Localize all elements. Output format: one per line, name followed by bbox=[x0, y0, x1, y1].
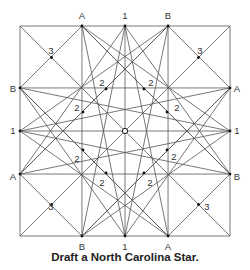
point-label: B bbox=[165, 10, 171, 21]
point-label: A bbox=[165, 241, 172, 250]
point-label: 2 bbox=[99, 77, 104, 88]
point-dot bbox=[81, 25, 84, 28]
point-label: 1 bbox=[234, 125, 239, 136]
point-dot bbox=[82, 111, 85, 114]
point-dot bbox=[19, 173, 22, 176]
figure-caption: Draft a North Carolina Star. bbox=[0, 251, 250, 263]
point-dot bbox=[197, 203, 200, 206]
point-dot bbox=[229, 173, 232, 176]
point-dot bbox=[229, 130, 232, 133]
point-dot bbox=[105, 88, 108, 91]
construction-line bbox=[20, 88, 125, 236]
point-label: A bbox=[10, 171, 17, 182]
point-dot bbox=[81, 235, 84, 238]
point-label: 2 bbox=[171, 151, 176, 162]
point-dot bbox=[124, 235, 127, 238]
point-dot bbox=[82, 149, 85, 152]
construction-line bbox=[20, 26, 125, 174]
point-dot bbox=[167, 25, 170, 28]
point-label: A bbox=[234, 83, 241, 94]
point-dot bbox=[197, 56, 200, 59]
point-label: 1 bbox=[10, 125, 15, 136]
point-label: 2 bbox=[74, 102, 79, 113]
point-dot bbox=[105, 172, 108, 175]
construction-line bbox=[125, 26, 230, 174]
construction-line bbox=[20, 26, 168, 131]
point-label: B bbox=[79, 241, 85, 250]
point-dot bbox=[166, 149, 169, 152]
point-label: 2 bbox=[148, 77, 153, 88]
point-label: 3 bbox=[48, 201, 53, 212]
point-label: 2 bbox=[147, 177, 152, 188]
point-label: 2 bbox=[74, 153, 79, 164]
north-carolina-star-diagram: A1BB1AA1BB1A333322222222 bbox=[0, 0, 250, 250]
point-dot bbox=[166, 111, 169, 114]
point-label: B bbox=[10, 83, 16, 94]
point-label: A bbox=[79, 10, 86, 21]
point-dot bbox=[50, 56, 53, 59]
point-dot bbox=[19, 130, 22, 133]
point-label: 2 bbox=[99, 177, 104, 188]
point-label: 1 bbox=[122, 241, 127, 250]
point-label: 2 bbox=[174, 102, 179, 113]
point-dot bbox=[124, 25, 127, 28]
point-dot bbox=[143, 172, 146, 175]
point-dot bbox=[229, 87, 232, 90]
point-label: 3 bbox=[204, 201, 209, 212]
construction-line bbox=[20, 131, 168, 236]
point-label: 3 bbox=[197, 45, 202, 56]
point-label: 1 bbox=[122, 10, 127, 21]
point-label: 3 bbox=[48, 45, 53, 56]
point-label: B bbox=[234, 171, 240, 182]
point-dot bbox=[19, 87, 22, 90]
point-dot bbox=[143, 88, 146, 91]
center-point bbox=[122, 128, 127, 133]
point-dot bbox=[167, 235, 170, 238]
